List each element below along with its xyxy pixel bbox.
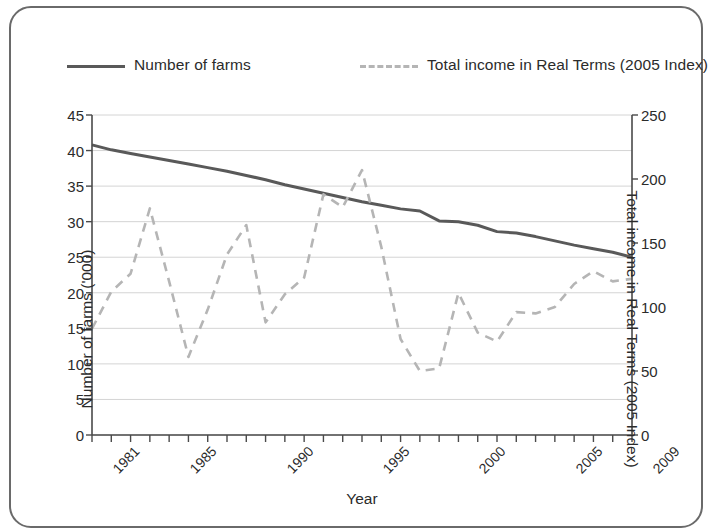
right-axis-tick-label: 0: [641, 428, 681, 443]
chart-legend: Number of farms Total income in Real Ter…: [55, 56, 635, 80]
bottom-axis-tick-label: 2009: [650, 443, 683, 477]
bottom-axis-tick-label: 2000: [476, 443, 509, 477]
gridlines-group: [92, 115, 632, 435]
series-line-total-income: [92, 170, 632, 371]
left-axis-title: Number of farms ('000): [78, 159, 96, 499]
left-axis-tick-label: 45: [44, 108, 84, 123]
right-axis-title: Total income in Real Terms (2005 Index): [623, 159, 641, 499]
bottom-axis-tick-label: 1985: [187, 443, 220, 477]
legend-item-total-income[interactable]: Total income in Real Terms (2005 Index): [360, 56, 708, 74]
right-axis-tick-label: 250: [641, 108, 681, 123]
plot-area: 051015202530354045 050100150200250 19811…: [92, 115, 632, 435]
right-axis-tick-label: 150: [641, 236, 681, 251]
right-axis-tick-label: 50: [641, 364, 681, 379]
bottom-axis-title: Year: [92, 490, 632, 508]
left-axis-tick-label: 40: [44, 143, 84, 158]
legend-label-number-of-farms: Number of farms: [134, 56, 251, 74]
legend-solid-line-swatch-icon: [67, 59, 125, 71]
plot-canvas: [92, 115, 632, 435]
bottom-axis-tick-label: 1995: [380, 443, 413, 477]
legend-item-number-of-farms[interactable]: Number of farms: [67, 56, 251, 74]
series-line-number-of-farms: [92, 145, 632, 257]
bottom-axis-tick-label: 2005: [572, 443, 605, 477]
legend-label-total-income: Total income in Real Terms (2005 Index): [427, 56, 708, 74]
bottom-axis-ticks-group: [92, 435, 632, 442]
right-axis-tick-labels: 050100150200250: [641, 115, 683, 435]
right-axis-tick-label: 100: [641, 300, 681, 315]
data-series-group: [92, 145, 632, 371]
bottom-axis-tick-label: 1981: [110, 443, 143, 477]
bottom-axis-tick-label: 1990: [283, 443, 316, 477]
right-axis-tick-label: 200: [641, 172, 681, 187]
legend-dashed-line-swatch-icon: [360, 59, 418, 71]
